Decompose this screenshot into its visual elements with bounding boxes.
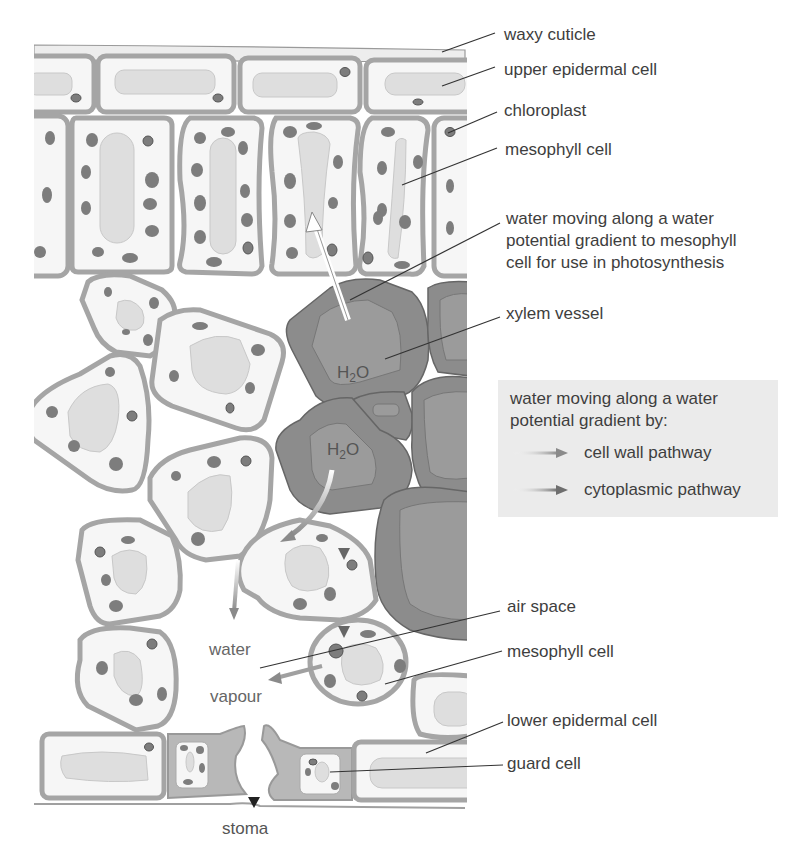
h2o-subscript: 2 (339, 448, 346, 462)
water-vapour-label-vapour: vapour (210, 687, 262, 707)
upper-epidermis (20, 56, 476, 112)
label-water-to-mesophyll: water moving along a water potential gra… (506, 208, 737, 274)
h2o-h: H (337, 363, 349, 382)
palisade-mesophyll (20, 116, 484, 276)
label-chloroplast: chloroplast (504, 100, 586, 121)
legend-label: cytoplasmic pathway (584, 480, 741, 500)
h2o-label-top: H2O (337, 363, 369, 385)
water-vapour-label-water: water (209, 640, 251, 660)
gradient-arrow-light-icon (512, 448, 568, 458)
legend-title: water moving along a water potential gra… (510, 388, 718, 432)
h2o-o: O (346, 440, 359, 459)
legend-label: cell wall pathway (584, 443, 712, 463)
label-mesophyll-cell-upper: mesophyll cell (505, 139, 612, 160)
lower-epidermis (34, 725, 480, 808)
label-upper-epidermal-cell: upper epidermal cell (504, 59, 657, 80)
h2o-label-bottom: H2O (327, 440, 359, 462)
h2o-o: O (356, 363, 369, 382)
legend: water moving along a water potential gra… (498, 380, 778, 517)
legend-item-cytoplasmic-pathway: cytoplasmic pathway (512, 480, 741, 500)
h2o-h: H (327, 440, 339, 459)
stoma-label: stoma (222, 819, 268, 839)
label-air-space: air space (507, 596, 576, 617)
label-guard-cell: guard cell (507, 753, 581, 774)
label-mesophyll-cell-lower: mesophyll cell (507, 641, 614, 662)
h2o-subscript: 2 (349, 371, 356, 385)
gradient-arrow-dark-icon (512, 485, 568, 495)
label-xylem-vessel: xylem vessel (506, 303, 603, 324)
label-lower-epidermal-cell: lower epidermal cell (507, 710, 657, 731)
label-waxy-cuticle: waxy cuticle (504, 24, 596, 45)
legend-item-cell-wall-pathway: cell wall pathway (512, 443, 712, 463)
